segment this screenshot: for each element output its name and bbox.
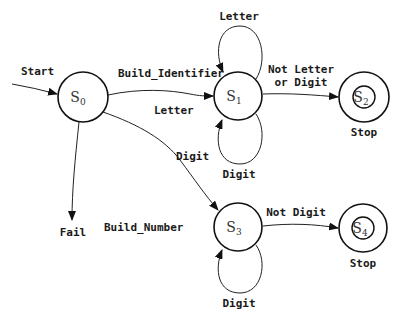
state-s3: S3 [214,203,262,251]
fail-label: Fail [60,226,87,239]
state-diagram: Start Build_Identifier Letter Letter Dig… [0,0,399,320]
start-transition: Start [12,65,57,94]
letter-label: Letter [154,104,194,117]
state-s4-accepting: S4 Stop [339,204,387,270]
not-letter-label: Not Letter [268,63,335,76]
transition-s0-fail: Fail [60,122,87,239]
s1-letter-loop: Letter [219,10,263,79]
state-s2-accepting: S2 Stop [339,72,389,139]
or-digit-label: or Digit [275,76,328,89]
s3-digit-loop: Digit [218,245,262,310]
s3-loop-digit-label: Digit [222,297,255,310]
s1-loop-digit-label: Digit [222,168,255,181]
s4-stop-label: Stop [350,257,377,270]
s1-loop-letter-label: Letter [219,10,259,23]
build-number-label: Build_Number [104,221,184,234]
build-identifier-label: Build_Identifier [118,67,224,80]
s2-stop-label: Stop [351,126,378,139]
start-label: Start [21,65,54,78]
not-digit-label: Not Digit [266,206,326,219]
transition-s0-s3: Digit Build_Number [103,112,218,234]
s1-digit-loop: Digit [218,114,262,181]
transition-s0-s1: Build_Identifier Letter [108,67,224,117]
transition-s1-s2: Not Letter or Digit [263,63,338,97]
state-s0: S0 [58,72,108,122]
digit-label: Digit [176,150,209,163]
state-s1: S1 [214,72,262,120]
transition-s3-s4: Not Digit [263,206,338,228]
